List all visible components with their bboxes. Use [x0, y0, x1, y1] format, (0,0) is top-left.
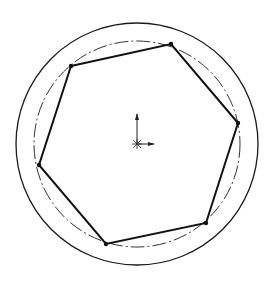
vertex-point[interactable]: [37, 163, 41, 167]
sketch-drawing: [0, 0, 271, 283]
origin-icon: [132, 113, 155, 149]
vertex-point[interactable]: [236, 121, 240, 125]
vertex-point[interactable]: [69, 64, 73, 68]
vertex-point[interactable]: [204, 221, 208, 225]
vertex-point[interactable]: [169, 42, 173, 46]
sketch-canvas[interactable]: [0, 0, 271, 283]
vertex-point[interactable]: [104, 242, 108, 246]
